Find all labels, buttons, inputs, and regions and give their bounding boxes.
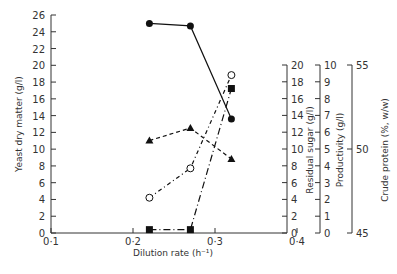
tick-label: 0·3 bbox=[207, 236, 223, 247]
tick-label: 8 bbox=[324, 94, 330, 105]
y-axis-protein: 455055Crude protein (%, w/w) bbox=[347, 60, 390, 239]
y-axis-title-sugar: Residual sugar (g/l) bbox=[305, 106, 315, 193]
tick-label: 4 bbox=[324, 161, 330, 172]
tick-label: 22 bbox=[32, 44, 45, 55]
tick-label: 5 bbox=[324, 144, 330, 155]
tick-label: 4 bbox=[39, 194, 45, 205]
y-axis-dry: 02468101214161820222426Yeast dry matter … bbox=[14, 10, 56, 239]
tick-label: 12 bbox=[291, 127, 304, 138]
tick-label: 0·2 bbox=[125, 236, 141, 247]
data-series bbox=[145, 20, 235, 233]
y-axis-prod: 012345678910Productivity (g/l) bbox=[315, 60, 345, 239]
series-sugar bbox=[146, 72, 235, 202]
tick-label: 1 bbox=[324, 211, 330, 222]
tick-label: 14 bbox=[32, 111, 45, 122]
y-axis-title-dry: Yeast dry matter (g/l) bbox=[14, 76, 24, 173]
chart: 02468101214161820222426Yeast dry matter … bbox=[0, 0, 397, 274]
tick-label: 50 bbox=[356, 144, 369, 155]
tick-label: 10 bbox=[32, 144, 45, 155]
filled-square-marker bbox=[187, 226, 194, 233]
tick-label: 0·1 bbox=[43, 236, 59, 247]
filled-triangle-marker bbox=[227, 155, 235, 162]
tick-label: 2 bbox=[291, 211, 297, 222]
series-prod bbox=[146, 85, 235, 233]
open-circle-marker bbox=[187, 165, 194, 172]
filled-square-marker bbox=[146, 226, 153, 233]
y-axis-title-prod: Productivity (g/l) bbox=[335, 113, 345, 187]
tick-label: 20 bbox=[32, 60, 45, 71]
open-circle-marker bbox=[146, 194, 153, 201]
x-axis-title: Dilution rate (h⁻¹) bbox=[133, 248, 213, 258]
tick-label: 6 bbox=[291, 178, 297, 189]
tick-label: 14 bbox=[291, 110, 304, 121]
tick-label: 16 bbox=[32, 94, 45, 105]
series-dry bbox=[146, 20, 235, 123]
tick-label: 2 bbox=[39, 211, 45, 222]
tick-label: 7 bbox=[324, 110, 330, 121]
tick-label: 18 bbox=[291, 77, 304, 88]
tick-label: 45 bbox=[356, 228, 369, 239]
tick-label: 10 bbox=[291, 144, 304, 155]
tick-label: 26 bbox=[32, 10, 45, 21]
axes: 02468101214161820222426Yeast dry matter … bbox=[14, 10, 390, 247]
tick-label: 6 bbox=[39, 178, 45, 189]
tick-label: 12 bbox=[32, 127, 45, 138]
filled-triangle-marker bbox=[186, 124, 194, 131]
series-protein bbox=[145, 124, 235, 162]
tick-label: 55 bbox=[356, 60, 369, 71]
x-axis: 0·10·20·30·4 bbox=[43, 228, 305, 247]
tick-label: 18 bbox=[32, 77, 45, 88]
filled-circle-marker bbox=[228, 115, 235, 122]
tick-label: 16 bbox=[291, 94, 304, 105]
tick-label: 24 bbox=[32, 27, 45, 38]
filled-circle-marker bbox=[187, 22, 194, 29]
tick-label: 6 bbox=[324, 127, 330, 138]
filled-square-marker bbox=[228, 85, 235, 92]
tick-label: 8 bbox=[39, 161, 45, 172]
tick-label: 9 bbox=[324, 77, 330, 88]
open-circle-marker bbox=[228, 72, 235, 79]
tick-label: 3 bbox=[324, 178, 330, 189]
y-axis-title-protein: Crude protein (%, w/w) bbox=[380, 98, 390, 202]
tick-label: 0·4 bbox=[289, 236, 305, 247]
tick-label: 10 bbox=[324, 60, 337, 71]
filled-circle-marker bbox=[146, 20, 153, 27]
tick-label: 2 bbox=[324, 194, 330, 205]
tick-label: 0 bbox=[324, 228, 330, 239]
tick-label: 4 bbox=[291, 194, 297, 205]
tick-label: 20 bbox=[291, 60, 304, 71]
tick-label: 8 bbox=[291, 161, 297, 172]
y-axis-sugar: 02468101214161820Residual sugar (g/l) bbox=[282, 60, 315, 239]
